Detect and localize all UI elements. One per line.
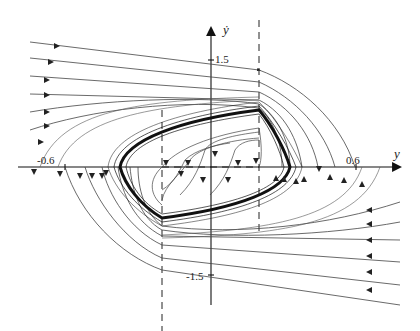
y-axis-label: ẏ xyxy=(223,22,229,38)
trajectories-top-left xyxy=(30,42,355,167)
y-tick-neg: -1.5 xyxy=(186,270,203,282)
y-tick-pos: 1.5 xyxy=(215,53,229,65)
limit-cycle xyxy=(108,102,302,226)
arrowheads xyxy=(31,43,372,293)
x-tick-pos: 0.6 xyxy=(346,154,360,166)
x-axis-label: y xyxy=(394,146,400,162)
x-tick-neg: -0.6 xyxy=(37,154,54,166)
